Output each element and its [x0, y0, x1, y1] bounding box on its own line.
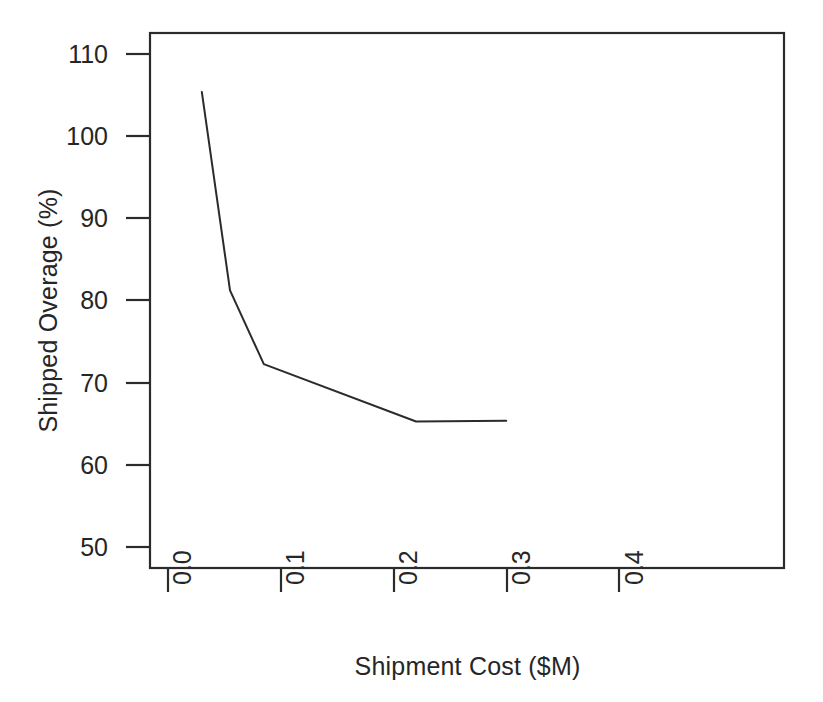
- x-tick-marks: [168, 568, 619, 592]
- y-tick-marks: [126, 54, 150, 547]
- axis-frame: [150, 33, 784, 568]
- chart-figure: Shipped Overage (%) Shipment Cost ($M) 1…: [0, 0, 823, 702]
- data-line-shipped-overage: [202, 92, 506, 422]
- plot-area: [0, 0, 823, 702]
